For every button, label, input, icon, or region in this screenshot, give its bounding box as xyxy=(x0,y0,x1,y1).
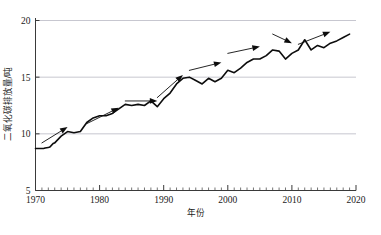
x-tick-label-1990: 1990 xyxy=(154,195,173,205)
x-tick-label-1970: 1970 xyxy=(26,195,45,205)
trend-arrows-group xyxy=(42,32,330,143)
y-tick-label-15: 15 xyxy=(21,73,31,83)
y-axis-title: 二氧化碳排放量/吨 xyxy=(2,67,13,142)
co2-data-line xyxy=(36,34,350,148)
x-axis-tick-labels: 197019801990200020102020 xyxy=(26,195,366,205)
gridlines-group xyxy=(36,21,357,134)
co2-emissions-line-chart: 197019801990200020102020 5101520 年份 二氧化碳… xyxy=(0,0,381,235)
x-tick-label-2010: 2010 xyxy=(282,195,301,205)
y-tick-label-20: 20 xyxy=(21,16,31,26)
x-tick-label-2020: 2020 xyxy=(347,195,366,205)
x-tick-label-2000: 2000 xyxy=(218,195,237,205)
y-axis-ticks xyxy=(36,21,40,191)
y-tick-label-5: 5 xyxy=(26,186,31,196)
trend-arrow-fall-2008 xyxy=(273,34,292,43)
trend-arrow-rise-late1990s xyxy=(189,61,221,70)
y-tick-label-10: 10 xyxy=(21,129,31,139)
chart-canvas: 197019801990200020102020 5101520 年份 二氧化碳… xyxy=(0,0,381,235)
trend-arrow-rise-2010s xyxy=(298,32,330,44)
trend-arrow-rise-1990s xyxy=(157,75,183,98)
trend-arrow-rise-2000s xyxy=(228,45,260,53)
x-axis-title: 年份 xyxy=(187,207,205,218)
trend-arrow-rise-1980s xyxy=(87,108,119,124)
y-axis-tick-labels: 5101520 xyxy=(21,16,31,196)
x-tick-label-1980: 1980 xyxy=(90,195,109,205)
